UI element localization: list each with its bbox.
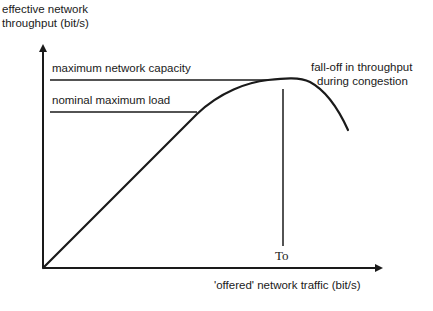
max-capacity-label: maximum network capacity	[52, 61, 191, 75]
nominal-load-label: nominal maximum load	[52, 93, 170, 107]
falloff-label-line1: fall-off in throughput	[311, 60, 412, 74]
y-axis-label-line2: throughput (bit/s)	[2, 16, 89, 30]
falloff-label-line2: during congestion	[317, 74, 408, 88]
y-axis-label-line1: effective network	[2, 2, 88, 16]
x-axis-label: 'offered' network traffic (bit/s)	[214, 278, 361, 292]
to-marker-label: To	[275, 249, 289, 263]
throughput-diagram	[0, 0, 433, 311]
